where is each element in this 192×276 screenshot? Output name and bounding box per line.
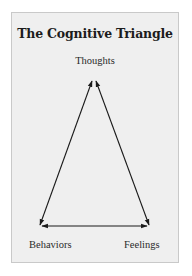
triangle-diagram — [0, 0, 192, 276]
edge-thoughts-behaviors — [40, 81, 92, 225]
edge-thoughts-feelings — [96, 81, 149, 225]
